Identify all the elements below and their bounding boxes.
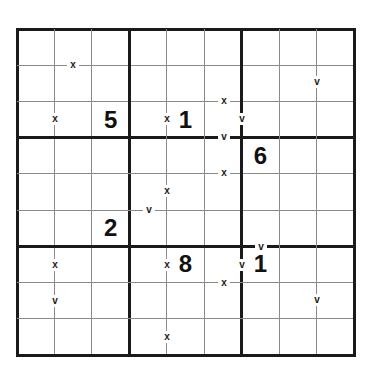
cell-border-horizontal xyxy=(17,173,354,174)
cell-r8c3[interactable] xyxy=(131,321,164,353)
cell-r2c8[interactable] xyxy=(319,103,352,135)
v-clue-marker: v xyxy=(236,113,248,125)
cell-r8c2[interactable] xyxy=(94,321,127,353)
cell-r2c2[interactable]: 5 xyxy=(94,103,127,135)
cell-r1c7[interactable] xyxy=(281,67,314,99)
cell-r7c0[interactable] xyxy=(19,285,52,317)
x-clue-marker: x xyxy=(218,167,230,179)
cell-border-horizontal xyxy=(17,101,354,102)
cell-r5c0[interactable] xyxy=(19,212,52,244)
cell-r5c5[interactable] xyxy=(206,212,239,244)
cell-r8c4[interactable] xyxy=(169,321,202,353)
cell-r7c3[interactable] xyxy=(131,285,164,317)
cell-r2c0[interactable] xyxy=(19,103,52,135)
x-clue-marker: x xyxy=(218,95,230,107)
cell-r5c7[interactable] xyxy=(281,212,314,244)
cell-r2c4[interactable]: 1 xyxy=(169,103,202,135)
cell-r3c0[interactable] xyxy=(19,140,52,172)
given-digit: 1 xyxy=(179,106,192,134)
cell-r0c7[interactable] xyxy=(281,31,314,63)
cell-r6c1[interactable] xyxy=(56,248,89,280)
cell-r4c1[interactable] xyxy=(56,176,89,208)
x-clue-marker: x xyxy=(161,259,173,271)
cell-r0c8[interactable] xyxy=(319,31,352,63)
given-digit: 2 xyxy=(104,214,117,242)
cell-r5c2[interactable]: 2 xyxy=(94,212,127,244)
cell-r5c6[interactable] xyxy=(244,212,277,244)
given-digit: 1 xyxy=(254,250,267,278)
cell-r1c0[interactable] xyxy=(19,67,52,99)
cell-r8c0[interactable] xyxy=(19,321,52,353)
cell-r3c7[interactable] xyxy=(281,140,314,172)
cell-r6c4[interactable]: 8 xyxy=(169,248,202,280)
cell-r7c1[interactable] xyxy=(56,285,89,317)
cell-r4c6[interactable] xyxy=(244,176,277,208)
cell-r0c2[interactable] xyxy=(94,31,127,63)
cell-r4c2[interactable] xyxy=(94,176,127,208)
cell-r0c6[interactable] xyxy=(244,31,277,63)
v-clue-marker: v xyxy=(311,76,323,88)
cell-r5c4[interactable] xyxy=(169,212,202,244)
cell-r1c1[interactable] xyxy=(56,67,89,99)
cell-r3c2[interactable] xyxy=(94,140,127,172)
cell-r1c2[interactable] xyxy=(94,67,127,99)
cell-border-horizontal xyxy=(17,282,354,283)
v-clue-marker: v xyxy=(311,294,323,306)
cell-r7c2[interactable] xyxy=(94,285,127,317)
cell-r3c6[interactable]: 6 xyxy=(244,140,277,172)
cell-r6c7[interactable] xyxy=(281,248,314,280)
cell-r8c7[interactable] xyxy=(281,321,314,353)
box-border-vertical xyxy=(353,28,356,357)
cell-r4c8[interactable] xyxy=(319,176,352,208)
cell-r7c5[interactable] xyxy=(206,285,239,317)
cell-r1c6[interactable] xyxy=(244,67,277,99)
cell-r3c4[interactable] xyxy=(169,140,202,172)
cell-r4c0[interactable] xyxy=(19,176,52,208)
given-digit: 8 xyxy=(179,250,192,278)
cell-border-vertical xyxy=(91,29,92,355)
cell-r6c6[interactable]: 1 xyxy=(244,248,277,280)
cell-r6c3[interactable] xyxy=(131,248,164,280)
cell-r1c3[interactable] xyxy=(131,67,164,99)
cell-r1c4[interactable] xyxy=(169,67,202,99)
cell-r6c2[interactable] xyxy=(94,248,127,280)
cell-r7c6[interactable] xyxy=(244,285,277,317)
cell-r4c7[interactable] xyxy=(281,176,314,208)
cell-r4c4[interactable] xyxy=(169,176,202,208)
cell-r6c5[interactable] xyxy=(206,248,239,280)
given-digit: 6 xyxy=(254,142,267,170)
cell-r8c1[interactable] xyxy=(56,321,89,353)
cell-r2c3[interactable] xyxy=(131,103,164,135)
x-clue-marker: x xyxy=(49,113,61,125)
cell-r3c8[interactable] xyxy=(319,140,352,172)
cell-r3c3[interactable] xyxy=(131,140,164,172)
v-clue-marker: v xyxy=(236,259,248,271)
cell-r6c8[interactable] xyxy=(319,248,352,280)
cell-r6c0[interactable] xyxy=(19,248,52,280)
cell-r8c8[interactable] xyxy=(319,321,352,353)
x-clue-marker: x xyxy=(218,277,230,289)
cell-r2c1[interactable] xyxy=(56,103,89,135)
cell-border-horizontal xyxy=(17,210,354,211)
cell-r2c6[interactable] xyxy=(244,103,277,135)
cell-r3c1[interactable] xyxy=(56,140,89,172)
cell-border-vertical xyxy=(204,29,205,355)
cell-r5c1[interactable] xyxy=(56,212,89,244)
cell-r0c3[interactable] xyxy=(131,31,164,63)
cell-r7c7[interactable] xyxy=(281,285,314,317)
x-clue-marker: x xyxy=(161,331,173,343)
cell-r0c5[interactable] xyxy=(206,31,239,63)
v-clue-marker: v xyxy=(143,204,155,216)
cell-r0c4[interactable] xyxy=(169,31,202,63)
cell-r2c7[interactable] xyxy=(281,103,314,135)
cell-r5c3[interactable] xyxy=(131,212,164,244)
cell-r4c5[interactable] xyxy=(206,176,239,208)
cell-r7c4[interactable] xyxy=(169,285,202,317)
cell-r1c8[interactable] xyxy=(319,67,352,99)
cell-r5c8[interactable] xyxy=(319,212,352,244)
cell-r0c0[interactable] xyxy=(19,31,52,63)
cell-r8c5[interactable] xyxy=(206,321,239,353)
cell-r8c6[interactable] xyxy=(244,321,277,353)
cell-r7c8[interactable] xyxy=(319,285,352,317)
given-digit: 5 xyxy=(104,106,117,134)
